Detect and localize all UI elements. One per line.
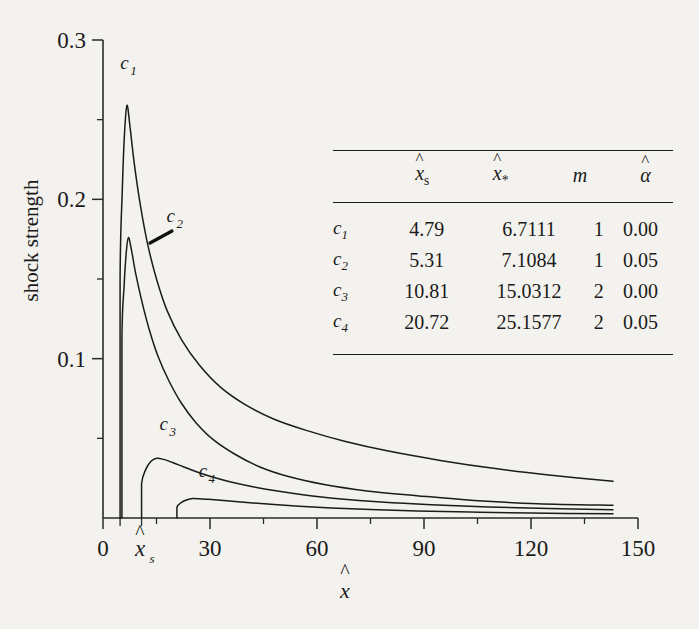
curve-label-sub: 4 xyxy=(209,471,216,486)
table-row: c420.7225.157720.05 xyxy=(333,307,673,338)
alpha-header-hat: ^ xyxy=(641,152,649,169)
curve-label-base: c xyxy=(159,413,168,434)
curve-label-c2: c2 xyxy=(167,205,184,231)
table-cell-xs: 5.31 xyxy=(385,245,469,276)
table-cell-xstar: 15.0312 xyxy=(469,276,590,307)
table-cell-m: 1 xyxy=(589,214,608,245)
table-cell-xstar: 7.1084 xyxy=(469,245,590,276)
table-cell-alpha: 0.05 xyxy=(608,307,673,338)
x-axis-title: x ^ xyxy=(339,560,350,603)
xs-header-hat: ^ xyxy=(415,150,423,167)
curve-label-c3: c3 xyxy=(159,413,176,439)
parameter-table-body: c14.796.711110.00c25.317.108410.05c310.8… xyxy=(333,214,673,338)
y-axis-title: shock strength xyxy=(19,146,44,336)
parameter-table: ^xs ^x* m ^α c14.796.711110.00c25.317.10… xyxy=(333,150,673,355)
table-cell-xstar: 25.1577 xyxy=(469,307,590,338)
table-header-alpha: ^α xyxy=(618,160,673,191)
xstar-header-hat: ^ xyxy=(493,150,501,167)
table-header-blank xyxy=(333,160,385,191)
table-cell-xs: 20.72 xyxy=(385,307,469,338)
curve-label-base: c xyxy=(167,205,176,226)
x-tick-label: 120 xyxy=(514,536,549,561)
xs-label-hat: ^ xyxy=(135,521,145,543)
x-tick-label: 90 xyxy=(413,536,436,561)
c2-leader-line xyxy=(150,231,172,243)
table-header-xstar: ^x* xyxy=(460,160,542,191)
curve-label-c1: c1 xyxy=(120,52,136,78)
table-cell-m: 2 xyxy=(589,276,608,307)
table-cell-alpha: 0.05 xyxy=(608,245,673,276)
y-tick-label: 0.2 xyxy=(57,187,86,212)
table-cell-m: 1 xyxy=(589,245,608,276)
table-row: c14.796.711110.00 xyxy=(333,214,673,245)
table-cell-m: 2 xyxy=(589,307,608,338)
table-row-name: c3 xyxy=(333,276,385,307)
table-cell-alpha: 0.00 xyxy=(608,214,673,245)
curve-label-base: c xyxy=(199,460,208,481)
table-row: c310.8115.031220.00 xyxy=(333,276,673,307)
table-cell-xs: 4.79 xyxy=(385,214,469,245)
parameter-table-grid: ^xs ^x* m ^α xyxy=(333,160,673,191)
table-cell-alpha: 0.00 xyxy=(608,276,673,307)
curve-label-sub: 1 xyxy=(130,63,137,78)
x-axis-title-hat: ^ xyxy=(340,560,350,582)
x-tick-label: 60 xyxy=(306,536,329,561)
x-tick-label: 0 xyxy=(97,536,109,561)
table-cell-xs: 10.81 xyxy=(385,276,469,307)
table-row-name: c2 xyxy=(333,245,385,276)
y-tick-label: 0.1 xyxy=(57,347,86,372)
curve-label-sub: 2 xyxy=(177,216,184,231)
table-row-name: c1 xyxy=(333,214,385,245)
table-cell-xstar: 6.7111 xyxy=(469,214,590,245)
xstar-header-sub: * xyxy=(502,173,509,188)
table-row-name: c4 xyxy=(333,307,385,338)
table-header-row: ^xs ^x* m ^α xyxy=(333,160,673,191)
y-tick-label: 0.3 xyxy=(57,28,86,53)
table-header-xs: ^xs xyxy=(385,160,460,191)
curve-label-sub: 3 xyxy=(168,424,176,439)
curve-label-base: c xyxy=(120,52,129,73)
figure-container: shock strength 03060901201500.10.20.3 c1… xyxy=(0,0,699,629)
table-row: c25.317.108410.05 xyxy=(333,245,673,276)
xs-label-sub: s xyxy=(149,551,154,566)
table-bottom-rule xyxy=(333,354,673,355)
xs-header-sub: s xyxy=(424,173,429,188)
x-tick-label: 30 xyxy=(199,536,222,561)
x-axis-shock-onset-label: x ^ s xyxy=(134,521,155,566)
curve-label-c4: c4 xyxy=(199,460,216,486)
x-tick-label: 150 xyxy=(621,536,656,561)
table-header-m: m xyxy=(542,160,618,191)
